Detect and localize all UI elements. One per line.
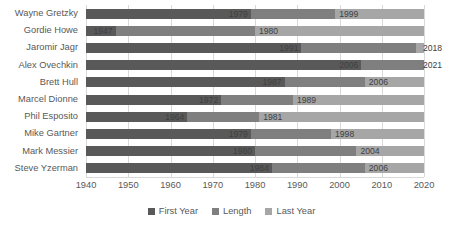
- bar-row: 19471980: [86, 22, 424, 39]
- stacked-bar[interactable]: 19791998: [86, 129, 424, 139]
- bar-row: 19802004: [86, 143, 424, 160]
- category-label: Jaromir Jagr: [0, 39, 84, 56]
- segment-length: [251, 129, 331, 139]
- x-tick-label: 2010: [371, 180, 392, 190]
- category-label: Steve Yzerman: [0, 160, 84, 177]
- segment-length: [116, 26, 255, 36]
- bar-row: 20062021: [86, 57, 424, 74]
- bar-row: 19872006: [86, 74, 424, 91]
- segment-first-year: 1987: [86, 77, 285, 87]
- segment-last-year-label: 1980: [259, 26, 278, 35]
- plot-area: 1979199919471980199120182006202119872006…: [86, 5, 424, 177]
- category-axis-labels: Wayne GretzkyGordie HoweJaromir JagrAlex…: [0, 5, 84, 177]
- segment-first-year: 1972: [86, 95, 221, 105]
- bar-row: 19641981: [86, 108, 424, 125]
- career-span-chart: Wayne GretzkyGordie HoweJaromir JagrAlex…: [0, 0, 463, 234]
- category-label: Alex Ovechkin: [0, 57, 84, 74]
- stacked-bar[interactable]: 20062021: [86, 60, 424, 70]
- segment-first-year-label: 2006: [339, 61, 358, 70]
- bar-row: 19842006: [86, 160, 424, 177]
- x-tick-label: 1970: [202, 180, 223, 190]
- legend-item[interactable]: First Year: [148, 206, 198, 216]
- segment-last-year-label: 2021: [423, 61, 442, 70]
- segment-length: [301, 43, 415, 53]
- x-axis-line: [86, 177, 424, 178]
- legend-item[interactable]: Length: [212, 206, 251, 216]
- legend-swatch: [212, 208, 219, 215]
- legend-label: Length: [223, 206, 251, 216]
- segment-length: [221, 95, 293, 105]
- segment-first-year: 1979: [86, 129, 251, 139]
- stacked-bar[interactable]: 19802004: [86, 146, 424, 156]
- segment-first-year: 1964: [86, 112, 187, 122]
- x-tick-label: 2000: [329, 180, 350, 190]
- segment-first-year-label: 1980: [233, 147, 252, 156]
- legend-label: First Year: [159, 206, 198, 216]
- segment-first-year: 2006: [86, 60, 361, 70]
- category-label: Wayne Gretzky: [0, 5, 84, 22]
- legend-swatch: [265, 208, 272, 215]
- x-tick-label: 1950: [118, 180, 139, 190]
- category-label: Gordie Howe: [0, 22, 84, 39]
- segment-length: [361, 60, 424, 70]
- segment-last-year-label: 1981: [263, 112, 282, 121]
- x-axis-tick-labels: 194019501960197019801990200020102020: [86, 180, 424, 194]
- segment-first-year-label: 1987: [262, 78, 281, 87]
- segment-first-year: 1979: [86, 9, 251, 19]
- stacked-bar[interactable]: 19721989: [86, 95, 424, 105]
- gridline: [424, 5, 425, 177]
- segment-last-year-label: 1998: [335, 130, 354, 139]
- stacked-bar[interactable]: 19791999: [86, 9, 424, 19]
- stacked-bar[interactable]: 19912018: [86, 43, 424, 53]
- chart-legend: First YearLengthLast Year: [0, 206, 463, 216]
- stacked-bar[interactable]: 19842006: [86, 163, 424, 173]
- segment-last-year: [255, 26, 424, 36]
- category-label: Brett Hull: [0, 74, 84, 91]
- bar-rows: 1979199919471980199120182006202119872006…: [86, 5, 424, 177]
- x-tick-label: 1980: [245, 180, 266, 190]
- segment-length: [187, 112, 259, 122]
- x-tick-label: 1990: [287, 180, 308, 190]
- segment-last-year-label: 1999: [339, 9, 358, 18]
- segment-first-year-label: 1984: [250, 164, 269, 173]
- segment-first-year-label: 1947: [93, 26, 112, 35]
- legend-item[interactable]: Last Year: [265, 206, 315, 216]
- category-label: Mark Messier: [0, 143, 84, 160]
- segment-first-year: 1984: [86, 163, 272, 173]
- segment-length: [272, 163, 365, 173]
- stacked-bar[interactable]: 19872006: [86, 77, 424, 87]
- segment-first-year-label: 1972: [199, 95, 218, 104]
- segment-last-year-label: 2004: [360, 147, 379, 156]
- stacked-bar[interactable]: 19471980: [86, 26, 424, 36]
- segment-last-year-label: 2018: [423, 44, 442, 53]
- x-tick-label: 2020: [414, 180, 435, 190]
- segment-length: [251, 9, 336, 19]
- bar-row: 19721989: [86, 91, 424, 108]
- segment-first-year-label: 1979: [229, 130, 248, 139]
- segment-first-year-label: 1991: [279, 44, 298, 53]
- segment-first-year: 1947: [86, 26, 116, 36]
- x-tick-label: 1960: [160, 180, 181, 190]
- category-label: Marcel Dionne: [0, 91, 84, 108]
- bar-row: 19791999: [86, 5, 424, 22]
- segment-last-year-label: 2006: [369, 78, 388, 87]
- legend-swatch: [148, 208, 155, 215]
- category-label: Mike Gartner: [0, 125, 84, 142]
- segment-last-year-label: 2006: [369, 164, 388, 173]
- bar-row: 19912018: [86, 39, 424, 56]
- segment-first-year: 1980: [86, 146, 255, 156]
- bar-row: 19791998: [86, 125, 424, 142]
- category-label: Phil Esposito: [0, 108, 84, 125]
- legend-label: Last Year: [276, 206, 315, 216]
- segment-last-year: [259, 112, 424, 122]
- x-tick-label: 1940: [76, 180, 97, 190]
- segment-length: [285, 77, 365, 87]
- segment-first-year-label: 1979: [229, 9, 248, 18]
- segment-length: [255, 146, 356, 156]
- segment-first-year-label: 1964: [165, 112, 184, 121]
- segment-first-year: 1991: [86, 43, 301, 53]
- stacked-bar[interactable]: 19641981: [86, 112, 424, 122]
- segment-last-year-label: 1989: [297, 95, 316, 104]
